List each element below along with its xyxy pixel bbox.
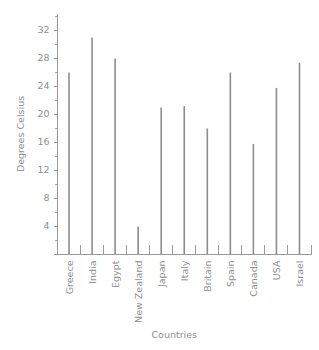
chart-container: 48121620242832 GreeceIndiaEgyptNew Zeala…	[0, 0, 319, 350]
x-tick-label: USA	[271, 260, 282, 280]
y-tick-label: 28	[37, 52, 49, 63]
x-tick-label: India	[87, 261, 98, 284]
x-tick-label: Greece	[64, 260, 75, 294]
x-tick-label: Italy	[179, 260, 190, 281]
x-axis-title: Countries	[151, 329, 197, 340]
y-tick-label: 24	[37, 80, 49, 91]
y-axis-tick-labels: 48121620242832	[37, 24, 49, 231]
x-tick-label: Egypt	[110, 260, 121, 288]
chart-svg: 48121620242832 GreeceIndiaEgyptNew Zeala…	[0, 0, 319, 350]
x-axis-tick-labels: GreeceIndiaEgyptNew ZealandJapanItalyBri…	[64, 260, 305, 323]
y-axis-title: Degrees Celsius	[15, 96, 26, 172]
y-tick-label: 20	[37, 108, 49, 119]
y-tick-label: 12	[37, 164, 49, 175]
bar-series	[69, 38, 299, 255]
y-tick-label: 8	[43, 192, 49, 203]
plot-area: 48121620242832 GreeceIndiaEgyptNew Zeala…	[0, 0, 319, 350]
x-tick-label: Britain	[202, 261, 213, 292]
x-tick-label: Israel	[294, 261, 305, 287]
y-tick-label: 4	[43, 220, 49, 231]
x-tick-label: New Zealand	[133, 261, 144, 323]
x-tick-label: Spain	[225, 261, 236, 288]
y-tick-label: 16	[37, 136, 49, 147]
x-tick-label: Japan	[156, 261, 167, 289]
y-tick-label: 32	[37, 24, 49, 35]
x-tick-label: Canada	[248, 261, 259, 297]
